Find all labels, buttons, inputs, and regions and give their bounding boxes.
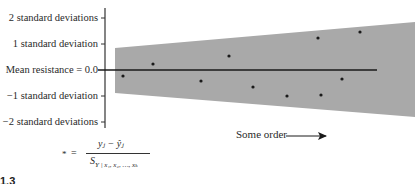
x-axis-label: Some order bbox=[236, 128, 287, 140]
formula-denominator: SY | x₁, x₂, …, xₖ bbox=[90, 155, 138, 169]
fraction-bar bbox=[86, 153, 150, 154]
formula-equals: = bbox=[71, 147, 77, 158]
point-7 bbox=[316, 36, 319, 39]
point-10 bbox=[358, 30, 361, 33]
point-8 bbox=[319, 93, 322, 96]
point-6 bbox=[285, 94, 288, 97]
point-4 bbox=[227, 54, 230, 57]
point-1 bbox=[121, 74, 124, 77]
denominator-subscript: Y | x₁, x₂, …, xₖ bbox=[95, 161, 138, 169]
figure-label: 1.3 bbox=[0, 175, 15, 184]
residual-diagram: 2 standard deviations 1 standard deviati… bbox=[0, 0, 417, 184]
formula-marker: * bbox=[62, 149, 67, 159]
y-tick-label-mean: Mean resistance = 0.0 bbox=[6, 64, 98, 76]
point-2 bbox=[151, 62, 154, 65]
y-tick-label-minus-2: −2 standard deviations bbox=[3, 116, 98, 128]
point-5 bbox=[251, 85, 254, 88]
point-9 bbox=[340, 77, 343, 80]
y-tick-label-plus-1: 1 standard deviation bbox=[13, 38, 98, 50]
point-3 bbox=[199, 79, 202, 82]
y-tick-label-minus-1: −1 standard deviation bbox=[7, 90, 98, 102]
right-arrow-icon bbox=[286, 132, 327, 140]
formula-numerator: yⱼ − ŷⱼ bbox=[98, 138, 124, 149]
y-tick-label-plus-2: 2 standard deviations bbox=[9, 12, 98, 24]
